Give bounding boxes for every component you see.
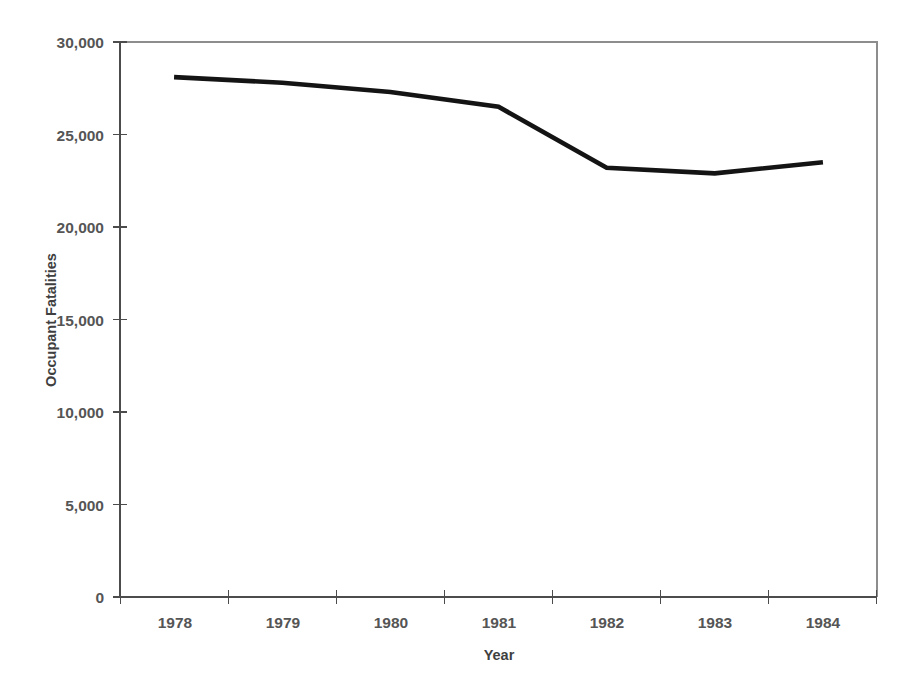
y-tick-label-15000: 15,000 — [57, 312, 104, 329]
chart-container: 0 5,000 10,000 15,000 20,000 25,000 30,0… — [0, 0, 909, 691]
x-tick-label-1982: 1982 — [590, 614, 624, 631]
y-axis-tick-labels: 0 5,000 10,000 15,000 20,000 25,000 30,0… — [57, 34, 104, 606]
y-tick-label-25000: 25,000 — [57, 127, 104, 144]
y-tick-label-0: 0 — [95, 589, 104, 606]
x-tick-label-1980: 1980 — [374, 614, 408, 631]
y-axis-title: Occupant Fatalities — [43, 253, 59, 387]
y-tick-label-10000: 10,000 — [57, 404, 104, 421]
x-tick-label-1981: 1981 — [482, 614, 517, 631]
plot-background — [120, 42, 877, 597]
y-tick-label-20000: 20,000 — [57, 219, 104, 236]
line-chart: 0 5,000 10,000 15,000 20,000 25,000 30,0… — [0, 0, 909, 691]
y-tick-label-30000: 30,000 — [57, 34, 104, 51]
x-tick-label-1978: 1978 — [158, 614, 193, 631]
x-axis-title: Year — [484, 647, 515, 663]
y-tick-label-5000: 5,000 — [65, 497, 104, 514]
x-axis-tick-labels: 1978 1979 1980 1981 1982 1983 1984 — [158, 614, 841, 631]
x-tick-label-1979: 1979 — [266, 614, 301, 631]
x-tick-label-1983: 1983 — [698, 614, 733, 631]
x-tick-label-1984: 1984 — [806, 614, 841, 631]
